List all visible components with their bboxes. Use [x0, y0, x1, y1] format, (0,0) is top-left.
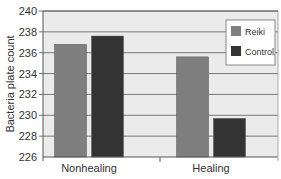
y-tick-label: 240 — [19, 5, 37, 17]
legend-label-control: Control — [245, 47, 274, 57]
y-tick-label: 230 — [19, 109, 37, 121]
y-tick-label: 226 — [19, 151, 37, 163]
y-tick-label: 228 — [19, 130, 37, 142]
bar-reiki-nonhealing — [55, 44, 87, 157]
y-tick-label: 238 — [19, 26, 37, 38]
legend-swatch-control — [231, 46, 241, 56]
bar-reiki-healing — [177, 57, 209, 157]
x-category-label: Healing — [192, 162, 229, 174]
legend-swatch-reiki — [231, 26, 241, 36]
bar-control-nonhealing — [92, 36, 124, 157]
bar-control-healing — [214, 118, 246, 157]
y-tick-label: 234 — [19, 68, 37, 80]
x-axis-categories: NonhealingHealing — [61, 162, 229, 174]
x-category-label: Nonhealing — [61, 162, 117, 174]
y-tick-label: 232 — [19, 88, 37, 100]
bar-chart: 226228230232234236238240 NonhealingHeali… — [0, 0, 281, 179]
y-axis-ticks: 226228230232234236238240 — [19, 5, 37, 163]
y-axis-label: Bacteria plate count — [4, 35, 16, 132]
legend-label-reiki: Reiki — [245, 27, 265, 37]
legend: ReikiControl — [226, 20, 275, 65]
y-tick-label: 236 — [19, 47, 37, 59]
